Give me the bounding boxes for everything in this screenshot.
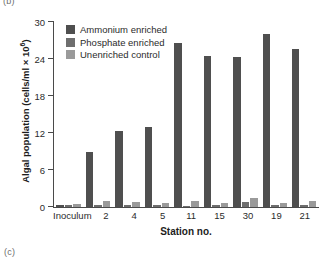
panel-letter-bottom: (c) — [4, 247, 15, 257]
bar — [115, 131, 123, 207]
y-axis-title-exponent: 6 — [19, 42, 26, 46]
y-axis-tick-label: 18 — [34, 91, 45, 102]
y-axis-tick-label: 0 — [40, 202, 45, 213]
bar-group — [290, 22, 319, 207]
bar — [132, 202, 140, 207]
legend-label: Ammonium enriched — [80, 24, 167, 35]
legend-item: Ammonium enriched — [66, 24, 167, 35]
bar — [124, 205, 132, 207]
bar — [233, 57, 241, 207]
legend-swatch — [66, 25, 75, 34]
x-axis-tick-label: 30 — [234, 210, 262, 221]
y-axis-title: Algal population (cells/ml × 106) — [19, 21, 31, 201]
y-axis-title-tail: ) — [20, 39, 31, 42]
panel-letter-top: (b) — [3, 0, 15, 6]
bar — [221, 203, 229, 207]
bar — [263, 34, 271, 207]
bar-group — [231, 22, 260, 207]
chart-legend: Ammonium enrichedPhosphate enrichedUnenr… — [66, 24, 167, 62]
legend-swatch — [66, 38, 75, 47]
x-axis-tick-label: 4 — [120, 210, 148, 221]
bar — [204, 56, 212, 207]
bar — [212, 205, 220, 207]
bar — [103, 201, 111, 207]
y-axis-tick-label: 6 — [40, 165, 45, 176]
x-axis-tick-label: 15 — [205, 210, 233, 221]
legend-item: Unenriched control — [66, 49, 167, 60]
bar — [309, 201, 317, 207]
y-axis-tick-label: 12 — [34, 128, 45, 139]
y-axis-title-base: Algal population (cells/ml × 10 — [20, 46, 31, 182]
legend-label: Phosphate enriched — [80, 37, 165, 48]
bar — [73, 204, 81, 207]
x-axis-tick-label: 2 — [92, 210, 120, 221]
bar — [242, 202, 250, 207]
bar-group — [201, 22, 230, 207]
x-axis-tick-label: 19 — [262, 210, 290, 221]
bar — [250, 198, 258, 207]
bar — [162, 203, 170, 207]
bar — [191, 201, 199, 207]
bar — [56, 205, 64, 207]
bar — [94, 205, 102, 207]
bar — [145, 127, 153, 207]
bar — [183, 206, 191, 207]
bar — [280, 203, 288, 207]
legend-swatch — [66, 50, 75, 59]
x-axis-title: Station no. — [53, 226, 319, 237]
bar — [292, 49, 300, 207]
bar — [65, 205, 73, 207]
x-axis-tick-label: 11 — [177, 210, 205, 221]
bar — [153, 205, 161, 207]
x-axis-tick-label: 21 — [291, 210, 319, 221]
x-axis-tick-labels: Inoculum2451115301921 — [53, 210, 319, 221]
chart-figure: (b) Algal population (cells/ml × 106) 06… — [0, 0, 330, 265]
bar — [86, 152, 94, 208]
x-axis-tick-label: 5 — [148, 210, 176, 221]
bar-group — [260, 22, 289, 207]
bar — [271, 205, 279, 207]
bar-group — [172, 22, 201, 207]
legend-label: Unenriched control — [80, 49, 160, 60]
legend-item: Phosphate enriched — [66, 37, 167, 48]
bar — [174, 43, 182, 207]
y-axis-tick-label: 30 — [34, 17, 45, 28]
x-axis-tick-label: Inoculum — [53, 210, 92, 221]
bar — [300, 205, 308, 207]
y-axis-tick-label: 24 — [34, 54, 45, 65]
